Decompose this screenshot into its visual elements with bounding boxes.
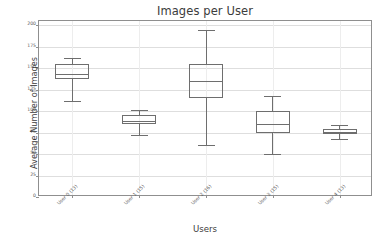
y-tick-label: 100	[14, 108, 36, 113]
cap-upper	[198, 30, 215, 31]
cap-lower	[131, 135, 148, 136]
y-tick-label: 75	[14, 129, 36, 134]
box-plot	[122, 21, 156, 195]
cap-lower	[331, 139, 348, 140]
cap-upper	[331, 125, 348, 126]
median-line	[122, 121, 156, 122]
cap-upper	[131, 110, 148, 111]
whisker-lower	[272, 133, 273, 154]
y-tick-mark	[36, 197, 39, 198]
x-tick-mark	[206, 195, 207, 198]
y-tick-label: 200	[14, 22, 36, 27]
x-axis-tick-labels: User 0 (13)User 1 (15)User 2 (16)User 3 …	[38, 199, 372, 223]
x-axis-label: Users	[38, 224, 372, 234]
x-tick-mark	[273, 195, 274, 198]
y-tick-mark	[36, 111, 39, 112]
cap-upper	[64, 58, 81, 59]
median-line	[323, 132, 357, 133]
y-tick-label: 175	[14, 43, 36, 48]
median-line	[55, 74, 89, 75]
y-tick-label: 125	[14, 86, 36, 91]
whisker-upper	[206, 30, 207, 64]
cap-upper	[264, 96, 281, 97]
y-tick-mark	[36, 176, 39, 177]
cap-lower	[198, 145, 215, 146]
whisker-upper	[272, 96, 273, 111]
y-tick-mark	[36, 154, 39, 155]
x-tick-mark	[72, 195, 73, 198]
y-tick-label: 50	[14, 151, 36, 156]
y-tick-mark	[36, 47, 39, 48]
plot-area	[38, 20, 372, 196]
y-tick-label: 150	[14, 65, 36, 70]
whisker-lower	[72, 79, 73, 101]
box-plot	[323, 21, 357, 195]
y-axis-tick-labels: 0255075100125150175200	[10, 20, 36, 196]
whisker-lower	[206, 98, 207, 145]
y-tick-mark	[36, 133, 39, 134]
median-line	[189, 81, 223, 82]
x-tick-mark	[139, 195, 140, 198]
whisker-lower	[139, 124, 140, 135]
chart-title: Images per User	[38, 4, 372, 18]
box-plot	[256, 21, 290, 195]
y-tick-mark	[36, 25, 39, 26]
cap-lower	[264, 154, 281, 155]
y-tick-mark	[36, 90, 39, 91]
chart-figure: Images per User Average Number of Images…	[0, 0, 391, 242]
box-plot	[55, 21, 89, 195]
y-tick-mark	[36, 68, 39, 69]
box-iqr	[55, 64, 89, 79]
median-line	[256, 124, 290, 125]
y-tick-label: 25	[14, 172, 36, 177]
cap-lower	[64, 101, 81, 102]
y-tick-label: 0	[14, 194, 36, 199]
x-tick-mark	[340, 195, 341, 198]
box-plot	[189, 21, 223, 195]
box-iqr	[256, 111, 290, 133]
